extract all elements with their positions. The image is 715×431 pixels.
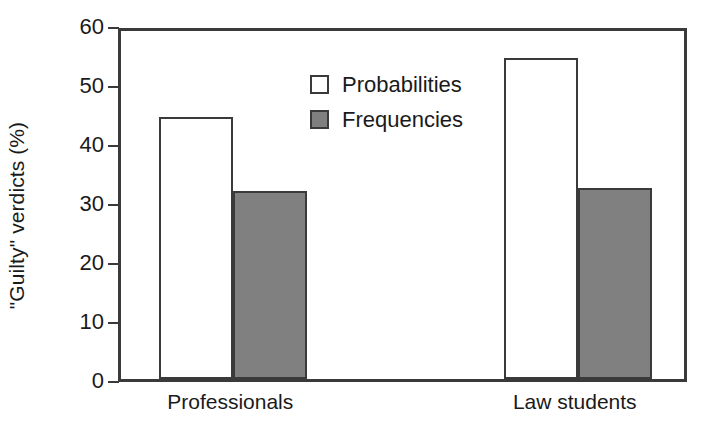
y-axis-tick-label: 20 (44, 252, 104, 274)
legend-item-frequencies: Frequencies (310, 102, 463, 137)
plot-area: Probabilities Frequencies (118, 28, 687, 382)
y-axis-tick-label: 30 (44, 193, 104, 215)
y-axis-title: "Guilty" verdicts (%) (0, 0, 34, 431)
bar-professionals-probabilities (159, 117, 233, 379)
legend-label-probabilities: Probabilities (342, 74, 462, 96)
y-axis-tick-label: 10 (44, 311, 104, 333)
y-axis-tick-label: 50 (44, 75, 104, 97)
y-axis-tick-label: 60 (44, 16, 104, 38)
legend: Probabilities Frequencies (310, 67, 463, 137)
legend-swatch-filled-square-icon (310, 110, 329, 129)
x-axis-label-professionals: Professionals (90, 390, 370, 414)
legend-label-frequencies: Frequencies (342, 109, 463, 131)
legend-swatch-open-square-icon (310, 75, 329, 94)
y-axis-tick-label: 40 (44, 134, 104, 156)
bar-chart-figure: "Guilty" verdicts (%) 0102030405060 Prob… (0, 0, 715, 431)
y-axis-tick-label: 0 (44, 370, 104, 392)
bar-law-students-frequencies (578, 188, 652, 379)
x-axis-label-law-students: Law students (435, 390, 715, 414)
bar-professionals-frequencies (233, 191, 307, 379)
legend-item-probabilities: Probabilities (310, 67, 463, 102)
bar-law-students-probabilities (504, 58, 578, 379)
